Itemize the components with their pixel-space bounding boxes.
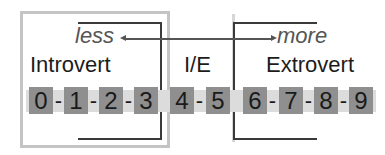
scale-digit-4: 4: [170, 87, 194, 114]
scale-digit-1: 1: [64, 87, 88, 114]
scale-digit-8: 8: [314, 87, 338, 114]
ie-label: I/E: [184, 54, 211, 76]
scale-separator: -: [123, 87, 134, 114]
scale-digit-6: 6: [243, 87, 267, 114]
less-more-arrow-line: [124, 38, 272, 40]
extrovert-label: Extrovert: [266, 54, 354, 76]
scale-separator: -: [194, 87, 205, 114]
arrow-left-icon: [120, 35, 126, 41]
scale-separator: -: [338, 87, 349, 114]
scale-separator: -: [53, 87, 64, 114]
less-label: less: [75, 25, 114, 47]
scale-digit-3: 3: [134, 87, 158, 114]
scale-digit-5: 5: [206, 87, 230, 114]
scale-digit-0: 0: [29, 87, 53, 114]
more-label: more: [277, 25, 327, 47]
scale-separator: -: [88, 87, 99, 114]
scale-digit-2: 2: [99, 87, 123, 114]
scale-digit-9: 9: [349, 87, 373, 114]
scale-separator: -: [303, 87, 314, 114]
introvert-label: Introvert: [30, 54, 111, 76]
scale-digit-7: 7: [279, 87, 303, 114]
scale-separator: -: [267, 87, 278, 114]
